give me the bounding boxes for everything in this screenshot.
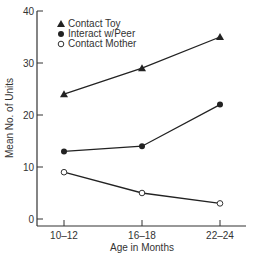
y-tick-label: 30 xyxy=(23,58,35,69)
data-point xyxy=(139,190,145,196)
line-chart: 010203040 10–1216–1822–24 Age in Months … xyxy=(0,0,257,256)
series-interact-w-peer xyxy=(61,102,223,155)
legend-marker xyxy=(57,20,65,27)
x-tick-label: 10–12 xyxy=(50,230,78,241)
legend-entry: Contact Mother xyxy=(68,38,137,49)
x-axis-label: Age in Months xyxy=(110,242,174,253)
y-tick-label: 20 xyxy=(23,110,35,121)
legend-marker xyxy=(58,31,64,37)
data-point xyxy=(61,169,67,175)
series-contact-mother xyxy=(61,169,223,206)
x-tick-label: 22–24 xyxy=(206,230,234,241)
series-group xyxy=(60,33,224,206)
y-tick-label: 40 xyxy=(23,6,35,17)
legend: Contact ToyInteract w/PeerContact Mother xyxy=(57,18,137,49)
data-point xyxy=(216,33,224,40)
data-point xyxy=(139,143,145,149)
y-ticks: 010203040 xyxy=(23,6,43,225)
legend-marker xyxy=(58,41,64,47)
x-tick-label: 16–18 xyxy=(128,230,156,241)
y-tick-label: 10 xyxy=(23,162,35,173)
data-point xyxy=(61,148,67,154)
data-point xyxy=(217,102,223,108)
data-point xyxy=(217,201,223,207)
series-line xyxy=(64,172,220,203)
x-ticks: 10–1216–1822–24 xyxy=(50,220,234,241)
y-axis-label: Mean No. of Units xyxy=(4,78,15,158)
y-tick-label: 0 xyxy=(28,214,34,225)
